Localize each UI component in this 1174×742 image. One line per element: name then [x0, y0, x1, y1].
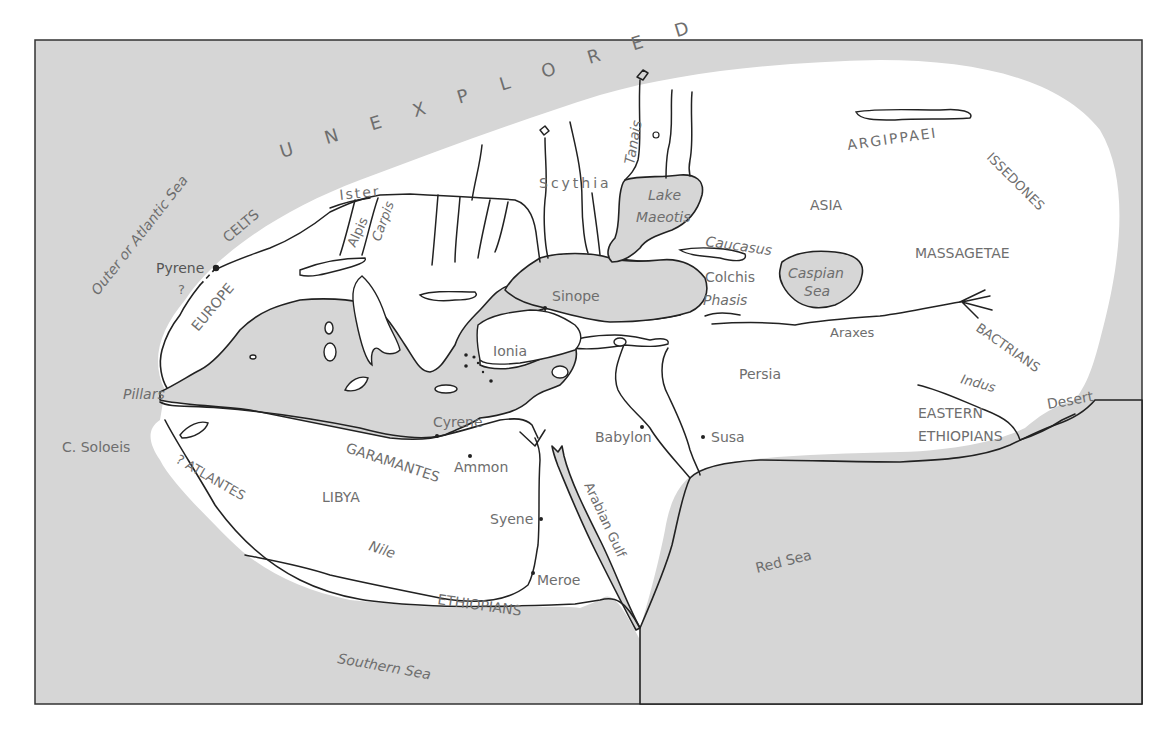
label-cyrene: Cyrene — [433, 414, 483, 430]
meroe-marker — [531, 571, 535, 575]
label-c-soloeis: C. Soloeis — [62, 439, 130, 455]
argippaei-mountains — [856, 109, 971, 120]
label-phasis: Phasis — [703, 292, 747, 308]
label-lake: Lake — [648, 187, 681, 203]
label-persia: Persia — [739, 366, 781, 382]
label-libya: LIBYA — [322, 489, 360, 505]
island-cyprus — [552, 366, 568, 378]
label-caspian: Caspian — [788, 265, 844, 281]
haemus-mountains — [420, 292, 476, 301]
label-asia: ASIA — [810, 197, 843, 213]
island-corsica — [325, 322, 333, 334]
herodotus-world-map: U N E X P L O R E D Outer or Atlantic Se… — [0, 0, 1174, 742]
sinope-marker — [543, 306, 547, 310]
label-pyrene: Pyrene — [156, 260, 204, 276]
label-meroe: Meroe — [537, 572, 580, 588]
pyrene-marker — [213, 265, 218, 270]
ammon-marker — [468, 454, 472, 458]
label-pyrene-question: ? — [178, 282, 185, 297]
label-araxes: Araxes — [830, 325, 874, 340]
island-balearic — [250, 355, 256, 359]
label-eastern: EASTERN — [918, 405, 983, 421]
label-susa: Susa — [711, 429, 745, 445]
susa-marker — [701, 435, 705, 439]
label-ionia: Ionia — [493, 343, 527, 359]
label-pillars: Pillars — [123, 386, 165, 402]
cyrene-marker — [435, 434, 439, 438]
label-sinope: Sinope — [552, 288, 600, 304]
mountain-lake — [614, 338, 626, 346]
label-massagetae: MASSAGETAE — [915, 245, 1010, 261]
label-ammon: Ammon — [454, 459, 508, 475]
syene-marker — [539, 517, 543, 521]
label-scythia: Scythia — [539, 175, 612, 191]
label-syene: Syene — [490, 511, 533, 527]
label-ethiopians-east: ETHIOPIANS — [918, 428, 1003, 444]
label-sea-caspian: Sea — [804, 283, 830, 299]
label-colchis: Colchis — [705, 269, 755, 285]
label-babylon: Babylon — [595, 429, 652, 445]
island-crete — [435, 385, 457, 393]
label-maeotis: Maeotis — [636, 209, 691, 225]
island-sardinia — [324, 343, 336, 361]
